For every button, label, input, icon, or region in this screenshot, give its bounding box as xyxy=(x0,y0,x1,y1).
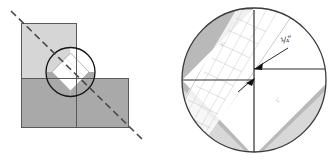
left-panel xyxy=(11,11,143,140)
technical-illustration: 1⁄₂ 1" ¼" xyxy=(0,0,335,161)
right-panel: 1⁄₂ 1" ¼" xyxy=(170,0,335,160)
figure-root: 1⁄₂ 1" ¼" xyxy=(0,0,335,161)
